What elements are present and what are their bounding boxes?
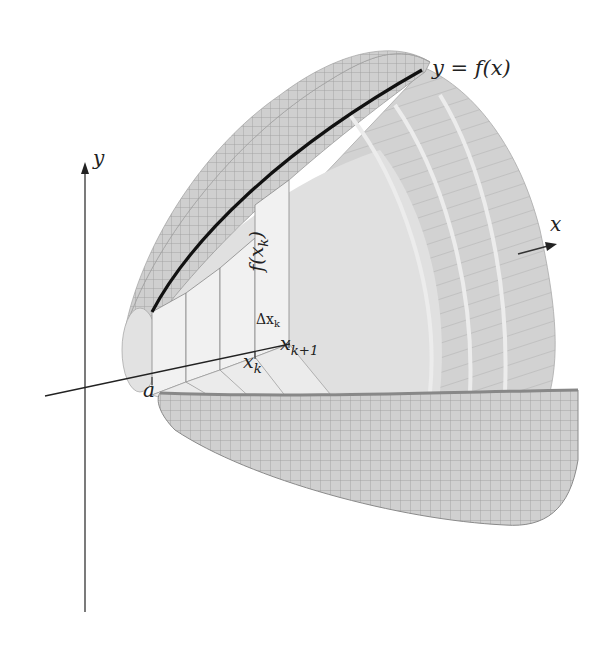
delta-x-label: Δxk bbox=[256, 312, 280, 329]
left-bound-label: a bbox=[143, 380, 155, 400]
xk-label: xk bbox=[243, 352, 262, 375]
y-axis-label: y bbox=[93, 148, 104, 168]
figure-canvas bbox=[0, 0, 596, 645]
height-label: f(xk) bbox=[247, 231, 270, 272]
xk1-label: xk+1 bbox=[280, 334, 318, 357]
y-axis-arrow-icon bbox=[81, 162, 89, 174]
solid-of-revolution-figure: y = f(x) y x a xk xk+1 Δxk f(xk) bbox=[0, 0, 596, 645]
bottom-shell-surface bbox=[158, 390, 578, 525]
x-axis-label: x bbox=[550, 214, 561, 234]
x-axis-arrow-icon bbox=[545, 242, 557, 251]
curve-label: y = f(x) bbox=[432, 58, 511, 79]
